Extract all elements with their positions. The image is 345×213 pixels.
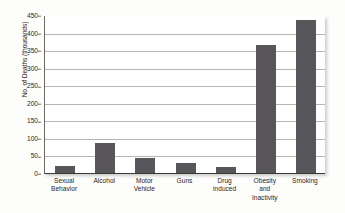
- y-axis-tick-label: 250: [27, 83, 38, 90]
- y-axis-tick-mark: [38, 174, 41, 175]
- x-axis-category-label: Druginduced: [205, 177, 245, 194]
- bar: [296, 20, 316, 173]
- x-axis-label-line: Obesity: [245, 177, 285, 185]
- y-axis-tick-label: 450: [27, 13, 38, 20]
- y-axis-tick-label: 200: [27, 100, 38, 107]
- y-axis-tick-mark: [38, 121, 41, 122]
- y-axis-tick-mark: [38, 156, 41, 157]
- bar: [135, 158, 155, 173]
- y-axis-tick-mark: [38, 139, 41, 140]
- x-axis-label-line: Inactivity: [245, 194, 285, 202]
- x-axis-label-line: Drug: [205, 177, 245, 185]
- x-axis-category-label: Guns: [164, 177, 204, 185]
- x-axis-category-label: ObesityandInactivity: [245, 177, 285, 202]
- y-axis-tick-mark: [38, 86, 41, 87]
- x-axis-label-line: Smoking: [285, 177, 325, 185]
- x-axis-label-line: Guns: [164, 177, 204, 185]
- y-axis-tick-mark: [38, 34, 41, 35]
- x-axis-label-line: Alcohol: [84, 177, 124, 185]
- y-axis-tick-mark: [38, 69, 41, 70]
- y-axis-tick-mark: [38, 51, 41, 52]
- x-axis-category-label: SexualBehavior: [44, 177, 84, 194]
- x-axis-category-label: Smoking: [285, 177, 325, 185]
- bar: [55, 166, 75, 173]
- y-axis-tick-label: 0: [34, 171, 38, 178]
- x-axis-category-label: MotorVehicle: [124, 177, 164, 194]
- y-axis-tick-labels: 050100150200250300350400450: [14, 16, 41, 174]
- x-axis-label-line: Behavior: [44, 185, 84, 193]
- x-axis-category-labels: SexualBehaviorAlcoholMotorVehicleGunsDru…: [44, 177, 325, 213]
- bar: [176, 163, 196, 173]
- bar-chart-figure: No. of Deaths (thousands) 05010015020025…: [0, 0, 345, 213]
- bar: [256, 45, 276, 173]
- x-axis-label-line: Vehicle: [124, 185, 164, 193]
- y-axis-tick-label: 150: [27, 118, 38, 125]
- bars-layer: [45, 16, 325, 173]
- plot-area: [44, 16, 325, 174]
- bar: [95, 143, 115, 173]
- y-axis-tick-label: 100: [27, 136, 38, 143]
- y-axis-tick-label: 50: [31, 153, 38, 160]
- y-axis-tick-mark: [38, 16, 41, 17]
- bar: [216, 167, 236, 173]
- x-axis-label-line: and: [245, 185, 285, 193]
- x-axis-label-line: Motor: [124, 177, 164, 185]
- x-axis-label-line: induced: [205, 185, 245, 193]
- y-axis-tick-mark: [38, 104, 41, 105]
- x-axis-label-line: Sexual: [44, 177, 84, 185]
- y-axis-tick-label: 400: [27, 30, 38, 37]
- y-axis-tick-label: 300: [27, 65, 38, 72]
- x-axis-category-label: Alcohol: [84, 177, 124, 185]
- y-axis-tick-label: 350: [27, 48, 38, 55]
